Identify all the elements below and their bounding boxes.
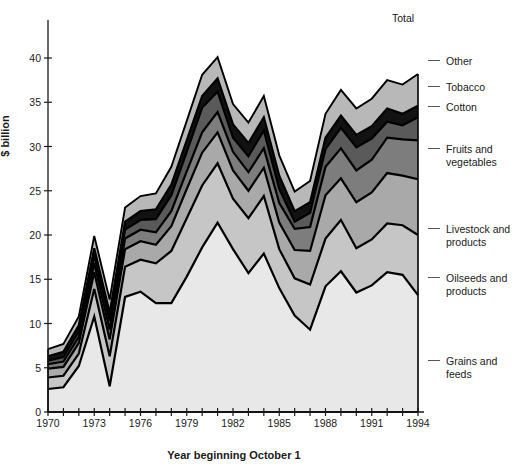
legend-label: Oilseeds andproducts (446, 272, 507, 297)
legend-label: Tobacco (446, 81, 485, 94)
legend-dash-icon (428, 360, 440, 361)
legend-dash-icon (428, 86, 440, 87)
legend-dash-icon (428, 228, 440, 229)
legend-label: Cotton (446, 101, 477, 114)
legend-dash-icon (428, 148, 440, 149)
chart-root: $ billion Year beginning October 1 05101… (0, 0, 525, 473)
legend-dash-icon (428, 106, 440, 107)
legend-label: Other (446, 55, 472, 68)
legend-dash-icon (428, 60, 440, 61)
total-series-label: Total (392, 12, 414, 24)
legend-label: Livestock andproducts (446, 223, 510, 248)
legend-label: Fruits andvegetables (446, 143, 497, 168)
legend-label: Grains andfeeds (446, 355, 497, 380)
legend-dash-icon (428, 277, 440, 278)
